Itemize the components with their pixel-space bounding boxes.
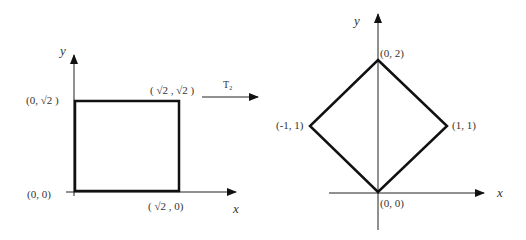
left-y-label: y	[60, 44, 66, 57]
diagram-canvas	[0, 0, 526, 240]
label-top: (0, 2)	[380, 48, 404, 59]
label-left: (-1, 1)	[276, 120, 304, 131]
label-top-right: ( √2 , √2 )	[150, 85, 194, 96]
label-origin: (0, 0)	[27, 189, 51, 200]
square-shape	[75, 101, 179, 191]
left-x-label: x	[233, 202, 239, 215]
transform-label: T₂	[223, 80, 233, 90]
right-x-label: x	[497, 186, 503, 199]
label-bottom-right: ( √2 , 0)	[148, 201, 183, 212]
label-right: (1, 1)	[452, 120, 476, 131]
right-y-label: y	[354, 14, 360, 27]
label-bottom: (0, 0)	[380, 198, 404, 209]
label-top-left: (0, √2 )	[26, 95, 59, 106]
